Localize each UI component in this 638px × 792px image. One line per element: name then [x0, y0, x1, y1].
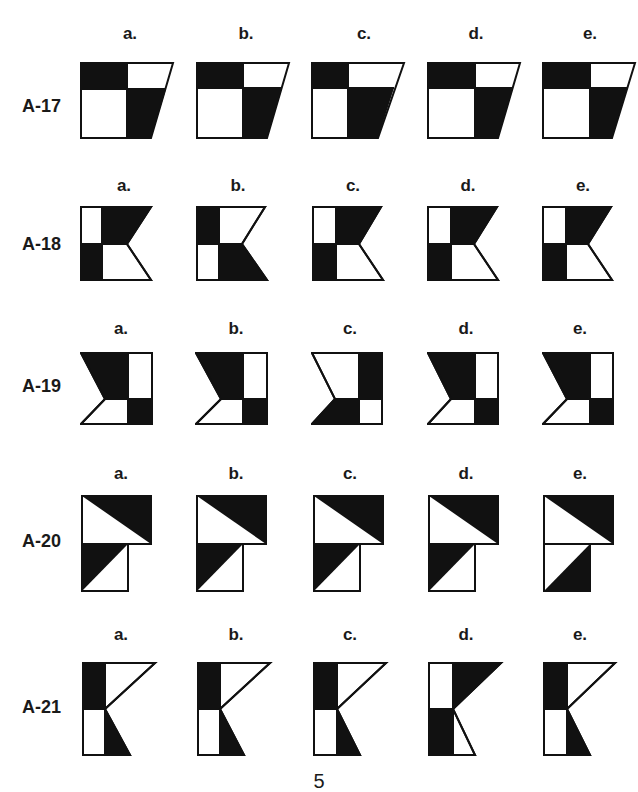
question-label-a20: A-20 — [22, 531, 61, 552]
question-label-a19: A-19 — [22, 376, 61, 397]
a19-option-d[interactable] — [427, 352, 501, 428]
option-label-a: a. — [101, 625, 141, 645]
option-label-e: e. — [563, 176, 603, 196]
option-label-e: e. — [560, 319, 600, 339]
option-label-d: d. — [456, 24, 496, 44]
a20-option-a[interactable] — [81, 495, 153, 593]
a21-option-b[interactable] — [197, 662, 273, 758]
a19-option-b[interactable] — [195, 352, 269, 428]
a18-option-b[interactable] — [196, 206, 270, 282]
question-label-a17: A-17 — [22, 96, 61, 117]
a17-option-c[interactable] — [311, 62, 406, 140]
a18-option-e[interactable] — [542, 206, 616, 282]
option-label-c: c. — [330, 319, 370, 339]
option-label-b: b. — [216, 319, 256, 339]
a17-option-e[interactable] — [542, 62, 637, 140]
page-number: 5 — [0, 770, 638, 792]
option-label-c: c. — [330, 625, 370, 645]
option-label-b: b. — [218, 176, 258, 196]
option-label-a: a. — [101, 464, 141, 484]
a18-option-c[interactable] — [312, 206, 386, 282]
a21-option-e[interactable] — [543, 662, 619, 758]
option-label-e: e. — [560, 625, 600, 645]
option-label-a: a. — [104, 176, 144, 196]
a17-option-b[interactable] — [196, 62, 291, 140]
option-label-d: d. — [448, 176, 488, 196]
a18-option-d[interactable] — [427, 206, 501, 282]
a17-option-d[interactable] — [427, 62, 522, 140]
option-label-a: a. — [101, 319, 141, 339]
a19-option-c[interactable] — [311, 352, 385, 428]
option-label-d: d. — [446, 625, 486, 645]
option-label-a: a. — [110, 24, 150, 44]
option-label-d: d. — [446, 464, 486, 484]
a20-option-e[interactable] — [543, 495, 615, 593]
option-label-b: b. — [226, 24, 266, 44]
option-label-c: c. — [333, 176, 373, 196]
a18-option-a[interactable] — [80, 206, 154, 282]
a17-option-a[interactable] — [80, 62, 175, 140]
option-label-d: d. — [446, 319, 486, 339]
option-label-c: c. — [344, 24, 384, 44]
a20-option-d[interactable] — [428, 495, 500, 593]
question-label-a18: A-18 — [22, 234, 61, 255]
a19-option-e[interactable] — [542, 352, 616, 428]
a21-option-a[interactable] — [82, 662, 158, 758]
a21-option-d[interactable] — [428, 662, 504, 758]
question-label-a21: A-21 — [22, 697, 61, 718]
option-label-e: e. — [560, 464, 600, 484]
a21-option-c[interactable] — [313, 662, 389, 758]
a20-option-c[interactable] — [313, 495, 385, 593]
option-label-e: e. — [570, 24, 610, 44]
a20-option-b[interactable] — [196, 495, 268, 593]
a19-option-a[interactable] — [80, 352, 154, 428]
option-label-b: b. — [216, 464, 256, 484]
option-label-c: c. — [330, 464, 370, 484]
option-label-b: b. — [216, 625, 256, 645]
